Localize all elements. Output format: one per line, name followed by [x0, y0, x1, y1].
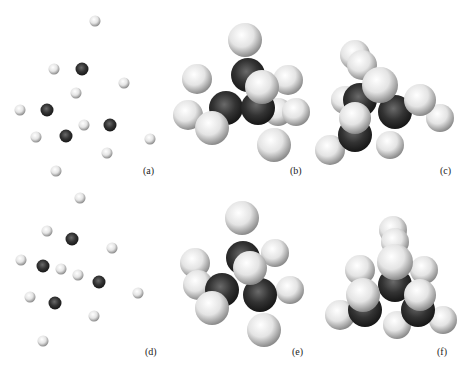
panel-d-ball-model — [16, 193, 144, 347]
panel-label-d: (d) — [145, 346, 157, 357]
panel-label-a: (a) — [143, 165, 154, 176]
panel-e-space-filling — [180, 201, 304, 347]
panel-label-b: (b) — [290, 165, 302, 176]
panel-label-e: (e) — [292, 346, 303, 357]
panel-c-space-filling — [315, 40, 454, 165]
panel-b-space-filling — [173, 23, 310, 162]
panel-label-f: (f) — [437, 346, 447, 357]
molecular-figure — [0, 0, 469, 369]
panel-a-ball-model — [15, 16, 156, 177]
panel-f-space-filling — [325, 216, 457, 339]
panel-label-c: (c) — [440, 165, 451, 176]
